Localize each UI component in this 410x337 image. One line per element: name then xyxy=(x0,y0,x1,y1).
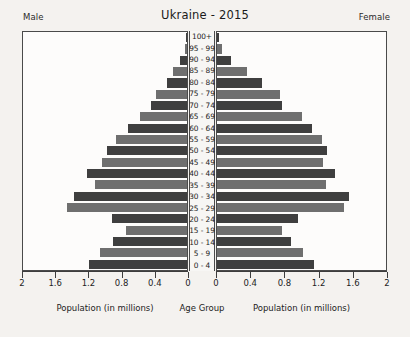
age-group-label: 70 - 74 xyxy=(190,100,214,111)
age-group-label: 55 - 59 xyxy=(190,134,214,145)
female-bar-10-14 xyxy=(217,237,291,246)
age-group-label: 20 - 24 xyxy=(190,214,214,225)
bar-row xyxy=(23,202,187,213)
male-bar-20-24 xyxy=(112,214,187,223)
female-bar-50-54 xyxy=(217,146,327,155)
age-group-label: 65 - 69 xyxy=(190,111,214,122)
male-bar-65-69 xyxy=(140,112,187,121)
female-bar-20-24 xyxy=(217,214,298,223)
female-bar-65-69 xyxy=(217,112,302,121)
bar-row xyxy=(23,111,187,122)
male-bar-40-44 xyxy=(87,169,187,178)
axis-tick-label: 0.4 xyxy=(148,278,162,288)
male-bar-80-84 xyxy=(167,78,188,87)
male-bar-95-99 xyxy=(185,44,187,53)
age-group-label: 50 - 54 xyxy=(190,145,214,156)
bar-row xyxy=(217,43,386,54)
male-x-axis xyxy=(22,271,188,278)
bar-row xyxy=(217,134,386,145)
female-bar-25-29 xyxy=(217,203,344,212)
axis-tick-label: 0 xyxy=(213,278,218,288)
bar-row xyxy=(217,32,386,43)
age-group-label: 75 - 79 xyxy=(190,88,214,99)
female-bar-30-34 xyxy=(217,192,349,201)
male-bar-30-34 xyxy=(74,192,187,201)
bar-row xyxy=(217,157,386,168)
female-bar-85-89 xyxy=(217,67,247,76)
age-group-label: 30 - 34 xyxy=(190,191,214,202)
age-group-label: 60 - 64 xyxy=(190,122,214,133)
bar-row xyxy=(23,32,187,43)
female-bar-40-44 xyxy=(217,169,335,178)
axis-tick-label: 2 xyxy=(19,278,24,288)
bar-row xyxy=(217,236,386,247)
bar-row xyxy=(23,55,187,66)
age-group-label: 100+ xyxy=(190,31,214,42)
male-bar-60-64 xyxy=(128,124,187,133)
female-bar-35-39 xyxy=(217,180,326,189)
age-group-axis: 100+95 - 9990 - 9485 - 8980 - 8475 - 797… xyxy=(189,31,215,271)
bar-row xyxy=(217,55,386,66)
male-bar-10-14 xyxy=(113,237,187,246)
male-x-tick-labels: 21.61.20.80.40 xyxy=(22,278,188,290)
bar-row xyxy=(23,168,187,179)
age-group-label: 80 - 84 xyxy=(190,77,214,88)
axis-tick-label: 1.6 xyxy=(48,278,62,288)
age-group-label: 85 - 89 xyxy=(190,65,214,76)
chart-title: Ukraine - 2015 xyxy=(0,8,410,22)
female-bar-70-74 xyxy=(217,101,282,110)
bar-row xyxy=(23,247,187,258)
male-bar-5-9 xyxy=(100,248,187,257)
bar-row xyxy=(217,100,386,111)
bar-row xyxy=(23,89,187,100)
axis-tick-label: 0.8 xyxy=(115,278,129,288)
male-bar-35-39 xyxy=(95,180,187,189)
male-bar-rows xyxy=(23,32,187,270)
female-bar-55-59 xyxy=(217,135,322,144)
bar-row xyxy=(217,225,386,236)
bar-row xyxy=(23,236,187,247)
male-bar-25-29 xyxy=(67,203,187,212)
bar-row xyxy=(23,145,187,156)
male-bar-90-94 xyxy=(180,56,187,65)
bar-row xyxy=(217,202,386,213)
bar-row xyxy=(23,179,187,190)
female-bar-45-49 xyxy=(217,158,323,167)
female-bar-rows xyxy=(217,32,386,270)
female-bar-5-9 xyxy=(217,248,303,257)
bar-row xyxy=(23,43,187,54)
bar-row xyxy=(23,225,187,236)
female-bar-75-79 xyxy=(217,90,280,99)
bar-row xyxy=(217,191,386,202)
bar-row xyxy=(23,66,187,77)
axis-tick-label: 2 xyxy=(384,278,389,288)
axis-tick-label: 0.8 xyxy=(278,278,292,288)
axis-tick-label: 0 xyxy=(185,278,190,288)
female-bar-60-64 xyxy=(217,124,312,133)
bar-row xyxy=(217,145,386,156)
axis-tick-label: 1.6 xyxy=(346,278,360,288)
male-bar-50-54 xyxy=(107,146,187,155)
bar-row xyxy=(217,89,386,100)
bar-row xyxy=(217,168,386,179)
age-group-label: 5 - 9 xyxy=(190,248,214,259)
female-bar-80-84 xyxy=(217,78,262,87)
female-x-tick-labels: 00.40.81.21.62 xyxy=(216,278,387,290)
bar-row xyxy=(217,247,386,258)
male-bar-0-4 xyxy=(89,260,187,269)
male-bar-100+ xyxy=(186,33,187,42)
age-group-label: 10 - 14 xyxy=(190,237,214,248)
bar-row xyxy=(217,66,386,77)
age-group-label: 95 - 99 xyxy=(190,42,214,53)
bar-row xyxy=(23,157,187,168)
age-group-label: 45 - 49 xyxy=(190,157,214,168)
bar-row xyxy=(23,213,187,224)
male-bar-55-59 xyxy=(116,135,187,144)
male-bar-75-79 xyxy=(156,90,187,99)
bar-row xyxy=(23,77,187,88)
bar-row xyxy=(23,100,187,111)
bar-row xyxy=(23,134,187,145)
female-x-axis xyxy=(216,271,387,278)
male-bar-85-89 xyxy=(173,67,187,76)
axis-tick-label: 1.2 xyxy=(312,278,326,288)
